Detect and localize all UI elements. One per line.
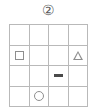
square-icon <box>15 51 24 60</box>
grid-cell-r3-c1[interactable] <box>10 66 30 87</box>
triangle-icon <box>73 51 83 60</box>
grid-cell-r3-c2[interactable] <box>30 66 50 87</box>
grid-cell-r2-c2[interactable] <box>30 46 50 67</box>
grid-cell-r3-c3[interactable] <box>49 66 69 87</box>
grid-cell-r3-c4[interactable] <box>69 66 89 87</box>
grid-cell-r2-c4[interactable] <box>69 46 89 67</box>
grid-cell-r1-c2[interactable] <box>30 25 50 46</box>
grid-cell-r4-c2[interactable] <box>30 87 50 108</box>
figure-number-label: ② <box>0 1 97 19</box>
shape-grid <box>9 24 88 107</box>
grid-cell-r2-c1[interactable] <box>10 46 30 67</box>
grid-cell-r4-c1[interactable] <box>10 87 30 108</box>
circle-icon <box>34 91 44 101</box>
grid-cell-r1-c3[interactable] <box>49 25 69 46</box>
puzzle-figure: ② <box>0 0 97 111</box>
grid-cell-r4-c4[interactable] <box>69 87 89 108</box>
grid-cell-r4-c3[interactable] <box>49 87 69 108</box>
grid-cell-r1-c4[interactable] <box>69 25 89 46</box>
bar-marker-icon <box>54 74 63 77</box>
grid-cell-r1-c1[interactable] <box>10 25 30 46</box>
grid-cell-r2-c3[interactable] <box>49 46 69 67</box>
